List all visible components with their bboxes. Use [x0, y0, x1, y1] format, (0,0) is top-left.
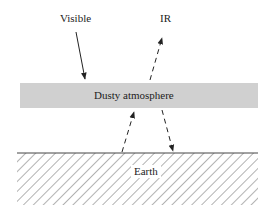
visible-label: Visible	[60, 13, 91, 24]
diagram-canvas	[0, 0, 276, 218]
earth-label: Earth	[131, 165, 161, 178]
ir-backradiation-arrow	[162, 110, 173, 151]
dusty-atmosphere-diagram: Visible IR Dusty atmosphere Earth	[0, 0, 276, 218]
earth-ground	[17, 153, 258, 205]
ir-upward-arrow	[122, 112, 134, 152]
atmosphere-label: Dusty atmosphere	[94, 90, 174, 101]
ir-escape-arrow	[150, 38, 162, 80]
visible-arrow	[76, 32, 85, 79]
ir-label: IR	[160, 13, 171, 24]
